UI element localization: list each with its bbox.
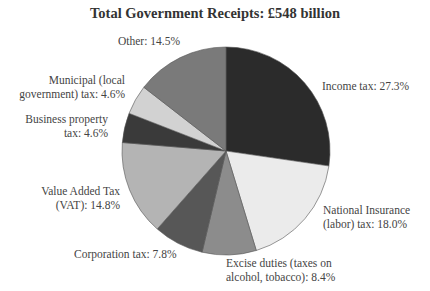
- pie-slices: [122, 47, 330, 255]
- slice-label: Business propertytax: 4.6%: [25, 113, 108, 139]
- slice-label: National Insurance(labor) tax: 18.0%: [323, 204, 410, 231]
- slice-label: Income tax: 27.3%: [322, 80, 410, 92]
- slice-label: Municipal (localgovernment) tax: 4.6%: [19, 74, 125, 101]
- pie-chart: Income tax: 27.3%National Insurance(labo…: [0, 0, 430, 291]
- slice-label: Excise duties (taxes onalcohol, tobacco)…: [226, 257, 336, 284]
- slice-label: Other: 14.5%: [118, 35, 180, 47]
- slice-label: Value Added Tax(VAT): 14.8%: [41, 185, 120, 212]
- slice-label: Corporation tax: 7.8%: [74, 248, 177, 261]
- pie-slice-income-tax: [226, 47, 330, 166]
